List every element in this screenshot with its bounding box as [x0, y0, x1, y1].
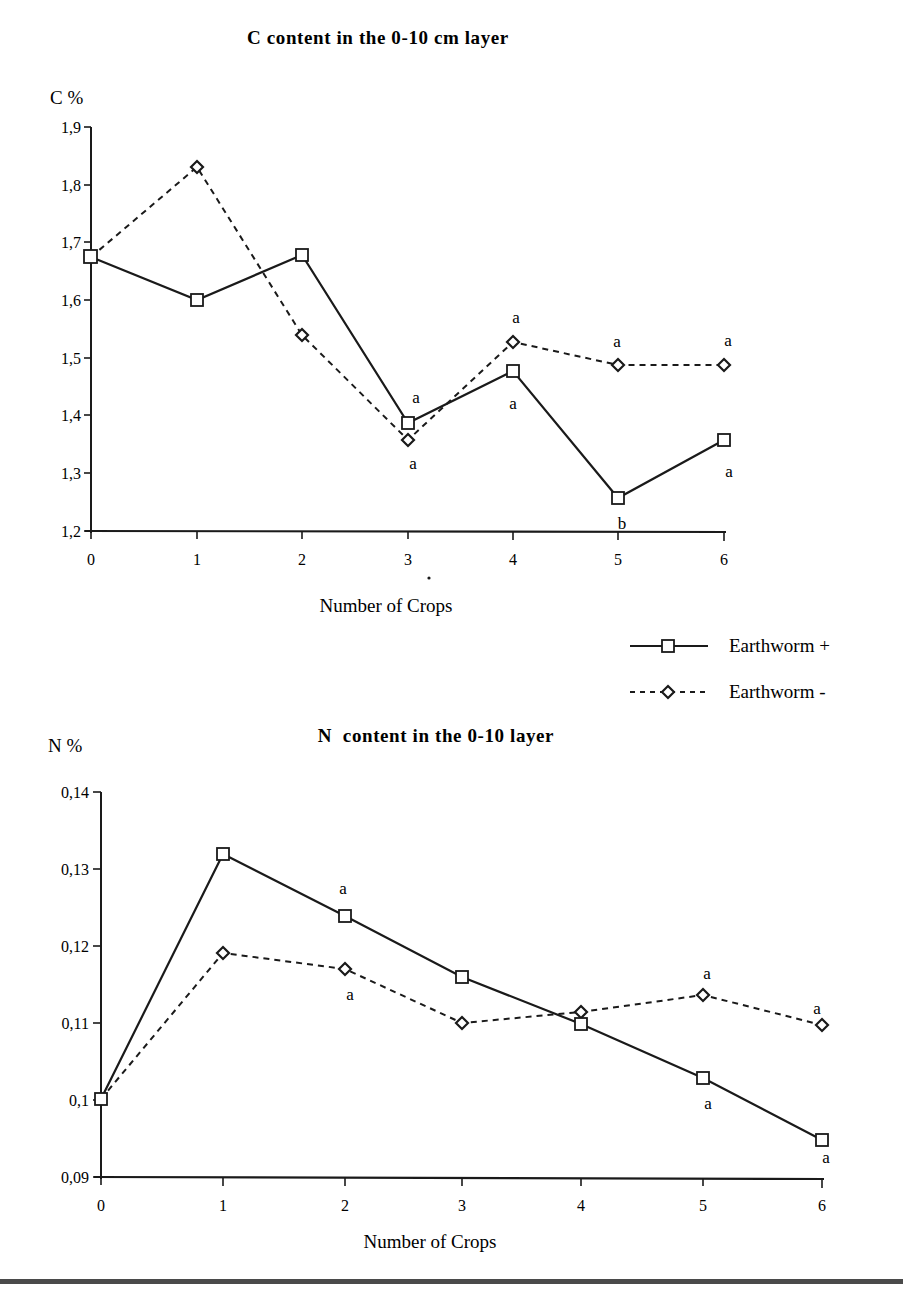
svg-text:5: 5 — [614, 551, 622, 568]
svg-text:1: 1 — [193, 551, 201, 568]
legend-item-earthworm-minus: Earthworm - — [630, 681, 826, 702]
svg-text:0,09: 0,09 — [61, 1169, 89, 1186]
c-content-chart: C content in the 0-10 cm layer C % 1,2 1… — [50, 27, 733, 616]
svg-text:a: a — [725, 462, 733, 481]
n-content-chart: N content in the 0-10 layer N % 0,09 0,1… — [48, 725, 830, 1252]
svg-text:1,5: 1,5 — [61, 350, 81, 367]
x-axis-label: Number of Crops — [320, 595, 453, 616]
svg-text:1,3: 1,3 — [61, 465, 81, 482]
x-axis — [94, 1177, 824, 1179]
x-tick-labels: 0 1 2 3 4 5 6 — [87, 551, 728, 568]
svg-text:1,6: 1,6 — [61, 292, 81, 309]
y-tick-labels: 1,2 1,3 1,4 1,5 1,6 1,7 1,8 1,9 — [61, 119, 81, 540]
svg-text:4: 4 — [509, 551, 517, 568]
svg-text:b: b — [618, 514, 627, 533]
svg-text:a: a — [412, 388, 420, 407]
svg-text:4: 4 — [577, 1197, 585, 1214]
svg-text:a: a — [409, 454, 417, 473]
svg-text:3: 3 — [404, 551, 412, 568]
svg-text:1,2: 1,2 — [61, 523, 81, 540]
svg-text:3: 3 — [458, 1197, 466, 1214]
significance-letters: a a a a a b a a — [409, 308, 733, 533]
y-axis-label: N % — [48, 735, 82, 756]
series-earthworm-minus-markers — [191, 161, 730, 446]
svg-text:5: 5 — [699, 1197, 707, 1214]
svg-text:a: a — [346, 985, 354, 1004]
svg-text:a: a — [704, 1094, 712, 1113]
chart-title: N content in the 0-10 layer — [318, 725, 554, 746]
svg-text:6: 6 — [818, 1197, 826, 1214]
svg-text:Earthworm -: Earthworm - — [729, 681, 826, 702]
svg-text:2: 2 — [341, 1197, 349, 1214]
svg-text:a: a — [813, 999, 821, 1018]
svg-text:a: a — [339, 879, 347, 898]
svg-text:1,7: 1,7 — [61, 234, 81, 251]
svg-text:a: a — [509, 394, 517, 413]
svg-text:1: 1 — [219, 1197, 227, 1214]
square-marker-icon — [662, 640, 674, 652]
series-earthworm-plus-markers — [84, 249, 730, 504]
svg-text:0: 0 — [87, 551, 95, 568]
y-ticks — [84, 127, 91, 531]
stray-dot — [427, 576, 430, 579]
svg-text:a: a — [512, 308, 520, 327]
legend: Earthworm + Earthworm - — [630, 635, 830, 702]
svg-text:1,9: 1,9 — [61, 119, 81, 136]
svg-text:a: a — [822, 1148, 830, 1167]
legend-item-earthworm-plus: Earthworm + — [630, 635, 830, 656]
series-earthworm-minus-line — [91, 167, 724, 440]
svg-text:0: 0 — [97, 1197, 105, 1214]
svg-text:a: a — [724, 331, 732, 350]
x-axis-label: Number of Crops — [364, 1231, 497, 1252]
x-axis — [85, 531, 726, 532]
svg-text:0,1: 0,1 — [69, 1092, 89, 1109]
y-axis-label: C % — [50, 87, 83, 108]
series-earthworm-plus-line — [91, 255, 724, 498]
svg-text:2: 2 — [298, 551, 306, 568]
svg-text:a: a — [703, 964, 711, 983]
diamond-marker-icon — [662, 686, 674, 698]
svg-text:0,11: 0,11 — [62, 1015, 89, 1032]
svg-text:1,4: 1,4 — [61, 407, 81, 424]
svg-text:6: 6 — [720, 551, 728, 568]
figure: C content in the 0-10 cm layer C % 1,2 1… — [0, 0, 903, 1294]
svg-text:1,8: 1,8 — [61, 177, 81, 194]
series-earthworm-minus-markers — [217, 947, 828, 1031]
chart-title: C content in the 0-10 cm layer — [247, 27, 509, 48]
x-tick-labels: 0 1 2 3 4 5 6 — [97, 1197, 826, 1214]
svg-text:0,14: 0,14 — [61, 784, 89, 801]
svg-text:0,12: 0,12 — [61, 938, 89, 955]
svg-text:a: a — [613, 332, 621, 351]
y-ticks — [93, 792, 101, 1177]
page-rule — [0, 1279, 903, 1284]
y-tick-labels: 0,09 0,1 0,11 0,12 0,13 0,14 — [61, 784, 89, 1186]
svg-text:0,13: 0,13 — [61, 861, 89, 878]
svg-text:Earthworm +: Earthworm + — [729, 635, 830, 656]
